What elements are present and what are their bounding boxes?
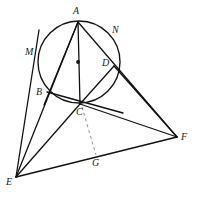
geometry-figure: A N M D B C F G E — [0, 0, 197, 200]
center-dot-icon — [76, 60, 80, 64]
point-label-A: A — [73, 6, 79, 16]
point-label-B: B — [36, 87, 42, 97]
point-label-E: E — [6, 177, 12, 187]
point-label-N: N — [112, 25, 119, 35]
segment-C-G — [82, 107, 96, 155]
dashed-lines-group — [82, 107, 96, 155]
point-label-C: C — [76, 107, 83, 117]
geometry-canvas — [0, 0, 197, 200]
point-label-M: M — [25, 47, 33, 57]
point-label-D: D — [102, 58, 109, 68]
point-label-G: G — [92, 158, 99, 168]
point-label-F: F — [181, 132, 187, 142]
